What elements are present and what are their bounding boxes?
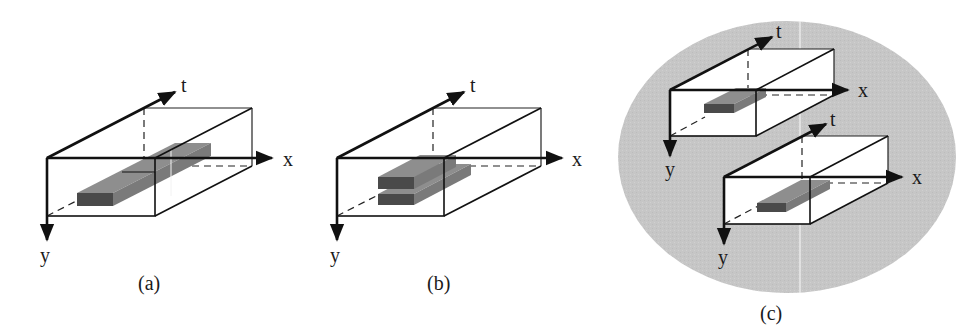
caption-a: (a) [138,272,160,295]
top-right-edge [444,108,541,158]
y-axis-label: y [665,158,675,181]
t-axis-label: t [181,74,187,96]
t-axis-label: t [830,108,836,130]
y-axis-label: y [40,244,50,267]
figure-canvas: t x y (a) t x y (b) [0,0,978,335]
panel-a: t x y (a) [40,74,293,295]
panel-b: t x y (b) [330,74,582,295]
hidden-edge [337,194,380,216]
caption-c: (c) [760,302,782,325]
y-axis-label: y [330,244,340,267]
t-axis-label: t [470,74,476,96]
x-axis-label: x [858,79,868,101]
caption-b: (b) [427,272,450,295]
x-axis-label: x [572,148,582,170]
t-axis-arrow [337,92,464,158]
t-axis-label: t [776,20,782,42]
x-axis-label: x [912,166,922,188]
t-axis-arrow [47,92,175,158]
y-axis-label: y [718,246,728,269]
x-axis-label: x [283,148,293,170]
panel-c: t x y t x y [618,20,956,325]
tube-bar [77,143,211,206]
